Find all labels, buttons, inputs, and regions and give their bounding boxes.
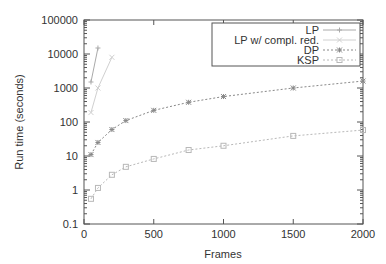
x-tick-label: 0 xyxy=(81,228,87,240)
x-axis-title: Frames xyxy=(204,248,242,260)
legend-label: KSP xyxy=(297,54,319,66)
data-point-star-icon xyxy=(361,79,366,84)
series-lp-w-compl-red xyxy=(88,55,114,115)
x-tick-label: 1500 xyxy=(281,228,305,240)
data-point-star-icon xyxy=(88,152,93,157)
y-tick-label: 1000 xyxy=(54,82,78,94)
data-point-star-icon xyxy=(123,118,128,123)
data-point-plus-icon xyxy=(95,46,100,51)
data-point-star-icon xyxy=(151,108,156,113)
series-lp xyxy=(88,46,100,85)
y-axis-title: Run time (seconds) xyxy=(13,74,25,169)
series-line xyxy=(91,48,98,82)
runtime-chart: 0500100015002000 0.111010010001000010000… xyxy=(0,0,386,264)
y-tick-label: 100 xyxy=(60,116,78,128)
legend: LPLP w/ compl. red.DPKSP xyxy=(212,23,360,66)
data-point-plus-icon xyxy=(88,80,93,85)
data-point-star-icon xyxy=(221,94,226,99)
x-tick-label: 2000 xyxy=(351,228,375,240)
series-ksp xyxy=(88,128,365,202)
x-tick-label: 1000 xyxy=(211,228,235,240)
data-point-star-icon xyxy=(291,86,296,91)
data-point-cross-icon xyxy=(109,55,114,60)
legend-star-icon xyxy=(337,48,342,53)
series-dp xyxy=(88,79,365,158)
series-line xyxy=(91,130,363,199)
y-tick-label: 100000 xyxy=(41,14,78,26)
chart-canvas: 0500100015002000 0.111010010001000010000… xyxy=(0,0,386,264)
data-point-star-icon xyxy=(109,127,114,132)
data-point-star-icon xyxy=(186,100,191,105)
data-point-star-icon xyxy=(95,140,100,145)
y-tick-label: 0.1 xyxy=(63,218,78,230)
x-tick-label: 500 xyxy=(145,228,163,240)
y-tick-label: 10000 xyxy=(47,48,78,60)
series-layer xyxy=(88,46,365,202)
y-tick-label: 10 xyxy=(66,150,78,162)
series-line xyxy=(91,81,363,155)
y-tick-label: 1 xyxy=(72,184,78,196)
